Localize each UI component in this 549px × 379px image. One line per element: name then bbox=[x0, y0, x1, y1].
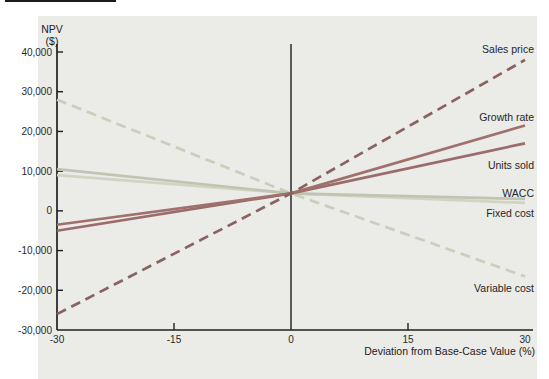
series-label-wacc: WACC bbox=[502, 187, 534, 199]
series-label-variable-cost: Variable cost bbox=[474, 282, 534, 294]
y-axis-title-line1: NPV bbox=[27, 23, 77, 35]
y-axis-title: NPV ($) bbox=[27, 23, 77, 47]
y-tick-label: 40,000 bbox=[21, 47, 52, 58]
y-axis-title-line2: ($) bbox=[27, 35, 77, 47]
x-tick-label: 0 bbox=[288, 334, 294, 345]
x-tick-label: 30 bbox=[519, 334, 531, 345]
y-tick-label: 30,000 bbox=[21, 86, 52, 97]
y-tick-label: 20,000 bbox=[21, 126, 52, 137]
x-tick-label: -30 bbox=[50, 334, 65, 345]
series-label-units-sold: Units sold bbox=[488, 159, 534, 171]
y-tick-label: -30,000 bbox=[18, 325, 52, 336]
chart-canvas: 40,00030,00020,00010,0000-10,000-20,000-… bbox=[0, 0, 549, 379]
y-tick-label: -20,000 bbox=[18, 285, 52, 296]
series-label-sales-price: Sales price bbox=[482, 43, 534, 55]
x-axis-title: Deviation from Base-Case Value (%) bbox=[364, 345, 535, 357]
y-tick-label: -10,000 bbox=[18, 245, 52, 256]
y-tick-label: 10,000 bbox=[21, 166, 52, 177]
x-tick-label: -15 bbox=[167, 334, 182, 345]
x-tick-label: 15 bbox=[402, 334, 414, 345]
y-tick-label: 0 bbox=[46, 205, 52, 216]
series-label-growth-rate: Growth rate bbox=[479, 111, 534, 123]
series-label-fixed-cost: Fixed cost bbox=[486, 207, 534, 219]
sensitivity-chart-figure: 40,00030,00020,00010,0000-10,000-20,000-… bbox=[0, 0, 549, 379]
